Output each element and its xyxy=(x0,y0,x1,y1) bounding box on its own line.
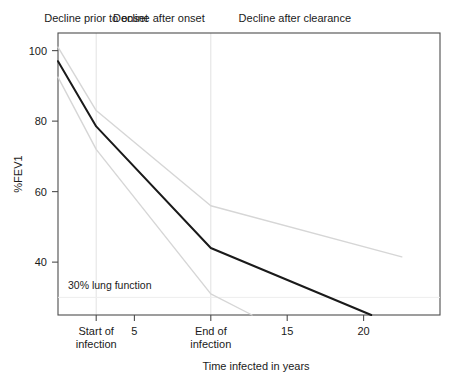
x-axis-ticks: Start ofinfection5End ofinfection1520 xyxy=(76,315,370,350)
x-tick-label-2-line2: infection xyxy=(190,338,231,350)
x-tick-label-0: Start of xyxy=(78,325,114,337)
series-line-upper-bound xyxy=(58,47,402,257)
phase-label-3: Decline after clearance xyxy=(239,12,352,24)
x-tick-label-4: 20 xyxy=(357,325,369,337)
x-tick-label-3: 15 xyxy=(281,325,293,337)
phase-label-2: Decline after onset xyxy=(113,12,205,24)
fev1-decline-chart: Decline prior to onsetDecline after onse… xyxy=(0,0,456,380)
y-tick-label-40: 40 xyxy=(35,256,47,268)
data-series-group xyxy=(58,47,402,315)
phase-labels-group: Decline prior to onsetDecline after onse… xyxy=(44,12,351,24)
series-line-mean-decline xyxy=(58,61,371,315)
threshold-label: 30% lung function xyxy=(68,279,152,291)
threshold-line-group: 30% lung function xyxy=(58,279,440,297)
y-axis-ticks: 100806040 xyxy=(29,45,58,269)
y-tick-label-80: 80 xyxy=(35,115,47,127)
x-axis-label: Time infected in years xyxy=(202,360,310,372)
y-tick-label-100: 100 xyxy=(29,45,47,57)
x-tick-label-0-line2: infection xyxy=(76,338,117,350)
y-axis-label: %FEV1 xyxy=(12,155,24,192)
x-tick-label-2: End of xyxy=(195,325,228,337)
chart-canvas: Decline prior to onsetDecline after onse… xyxy=(0,0,456,380)
y-tick-label-60: 60 xyxy=(35,186,47,198)
x-tick-label-1: 5 xyxy=(131,325,137,337)
